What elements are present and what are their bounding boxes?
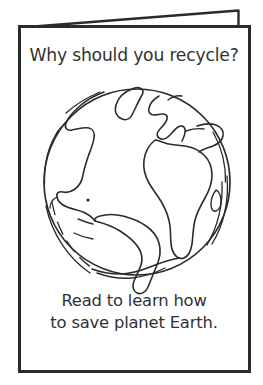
back-panel bbox=[22, 11, 250, 28]
map-speck-island bbox=[86, 198, 89, 201]
recycling-card-illustration: Why should you recycle? Read to learn ho… bbox=[0, 0, 263, 385]
card-drawing-canvas bbox=[0, 0, 263, 385]
